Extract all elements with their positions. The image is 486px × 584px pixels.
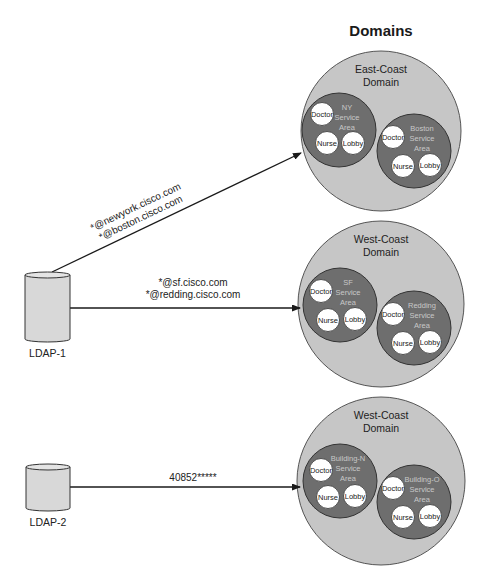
- node-label: Doctor: [382, 133, 405, 142]
- node-nurse: Nurse: [392, 332, 415, 355]
- ldap-server-1: LDAP-1: [25, 272, 70, 359]
- service-area: SFServiceAreaDoctorNurseLobby: [303, 268, 377, 342]
- node-nurse: Nurse: [392, 155, 415, 178]
- service-area: ReddingServiceAreaDoctorNurseLobby: [377, 291, 451, 365]
- node-lobby: Lobby: [344, 308, 367, 331]
- node-doctor: Doctor: [311, 103, 334, 126]
- service-area: BostonServiceAreaDoctorNurseLobby: [377, 114, 451, 188]
- service-area-label: Service: [335, 464, 360, 473]
- node-label: Lobby: [345, 315, 366, 324]
- service-area-label: Building-O: [404, 475, 439, 484]
- service-area-label: Area: [340, 474, 357, 483]
- connection-arrow: *@newyork.cisco.com*@boston.cisco.com: [52, 153, 301, 272]
- node-label: Nurse: [393, 513, 413, 522]
- diagram-title: Domains: [349, 22, 412, 39]
- node-doctor: Doctor: [310, 459, 333, 482]
- routing-pattern-label: *@sf.cisco.com: [158, 277, 227, 288]
- routing-pattern-label: *@redding.cisco.com: [146, 289, 241, 300]
- domain-name: Domain: [363, 422, 399, 434]
- domain-2: West-CoastDomainSFServiceAreaDoctorNurse…: [298, 221, 464, 387]
- domains-layer: East-CoastDomainNYServiceAreaDoctorNurse…: [297, 51, 465, 565]
- service-area-label: Area: [340, 298, 357, 307]
- domain-name: West-Coast: [354, 233, 409, 245]
- service-area: Building-NServiceAreaDoctorNurseLobby: [303, 444, 377, 518]
- node-label: Doctor: [382, 310, 405, 319]
- database-cylinder-icon: [25, 275, 70, 342]
- domain-name: Domain: [363, 76, 399, 88]
- node-label: Lobby: [420, 338, 441, 347]
- ldap-server-2: LDAP-2: [26, 464, 70, 528]
- service-area-label: Service: [409, 134, 434, 143]
- ldap-layer: LDAP-1LDAP-2: [25, 272, 70, 528]
- routing-pattern-label: 40852*****: [169, 472, 216, 483]
- service-area-label: Area: [414, 495, 431, 504]
- node-nurse: Nurse: [316, 132, 339, 155]
- service-area-label: Area: [414, 321, 431, 330]
- domain-name: East-Coast: [355, 63, 407, 75]
- service-area-label: Area: [414, 144, 431, 153]
- connection-arrow: *@sf.cisco.com*@redding.cisco.com: [70, 277, 300, 308]
- service-area-label: NY: [342, 103, 352, 112]
- node-label: Nurse: [318, 493, 338, 502]
- node-doctor: Doctor: [382, 126, 405, 149]
- service-area: NYServiceAreaDoctorNurseLobby: [302, 93, 376, 167]
- service-area-label: Service: [409, 311, 434, 320]
- node-label: Lobby: [345, 492, 366, 501]
- service-area-label: Boston: [410, 124, 433, 133]
- service-area: Building-OServiceAreaDoctorNurseLobby: [377, 465, 451, 539]
- node-label: Lobby: [343, 139, 364, 148]
- node-label: Nurse: [393, 162, 413, 171]
- node-label: Doctor: [311, 110, 334, 119]
- domain-3: West-CoastDomainBuilding-NServiceAreaDoc…: [297, 397, 465, 565]
- domain-name: Domain: [363, 246, 399, 258]
- node-label: Nurse: [317, 139, 337, 148]
- node-nurse: Nurse: [317, 309, 340, 332]
- arrow-line: [52, 153, 301, 272]
- service-area-label: Area: [339, 123, 356, 132]
- service-area-label: Redding: [408, 301, 436, 310]
- node-nurse: Nurse: [392, 506, 415, 529]
- ldap-label: LDAP-2: [30, 516, 67, 528]
- node-doctor: Doctor: [310, 280, 333, 303]
- database-cylinder-top: [26, 464, 70, 470]
- node-nurse: Nurse: [317, 486, 340, 509]
- node-lobby: Lobby: [419, 331, 442, 354]
- domain-1: East-CoastDomainNYServiceAreaDoctorNurse…: [301, 51, 461, 211]
- node-label: Lobby: [420, 161, 441, 170]
- node-doctor: Doctor: [382, 477, 405, 500]
- node-doctor: Doctor: [382, 303, 405, 326]
- node-label: Nurse: [318, 316, 338, 325]
- node-lobby: Lobby: [419, 154, 442, 177]
- node-lobby: Lobby: [344, 485, 367, 508]
- node-lobby: Lobby: [342, 132, 365, 155]
- service-area-label: Service: [334, 113, 359, 122]
- service-area-label: SF: [343, 278, 353, 287]
- service-area-label: Service: [335, 288, 360, 297]
- connection-arrow: 40852*****: [70, 472, 300, 487]
- database-cylinder-icon: [26, 467, 70, 511]
- domain-name: West-Coast: [354, 409, 409, 421]
- service-area-label: Building-N: [331, 454, 366, 463]
- node-label: Doctor: [310, 287, 333, 296]
- connections-layer: *@newyork.cisco.com*@boston.cisco.com*@s…: [52, 153, 301, 487]
- node-label: Doctor: [382, 484, 405, 493]
- service-area-label: Service: [409, 485, 434, 494]
- ldap-label: LDAP-1: [29, 347, 66, 359]
- database-cylinder-top: [25, 272, 70, 278]
- node-lobby: Lobby: [419, 505, 442, 528]
- domains-diagram: Domains East-CoastDomainNYServiceAreaDoc…: [0, 0, 486, 584]
- node-label: Doctor: [310, 466, 333, 475]
- node-label: Nurse: [393, 339, 413, 348]
- node-label: Lobby: [420, 512, 441, 521]
